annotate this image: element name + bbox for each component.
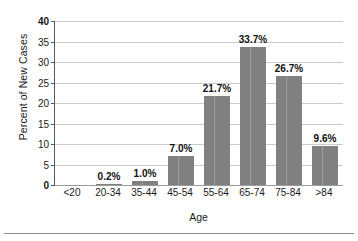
bar-value-label: 0.2%	[91, 171, 127, 182]
x-axis-title: Age	[54, 211, 343, 223]
bar[interactable]	[204, 96, 230, 185]
y-axis-tick-label: 25	[38, 77, 49, 88]
x-axis-tick-label: 45-54	[162, 187, 198, 198]
bar[interactable]	[312, 146, 338, 185]
x-axis-tick-label: >84	[306, 187, 342, 198]
bar-group: 26.7%	[271, 21, 307, 185]
x-axis-tick-labels: <2020-3435-4445-5455-6465-7475-84>84	[54, 187, 343, 203]
x-axis-tick-label: 75-84	[270, 187, 306, 198]
y-axis-tick-label: 5	[43, 159, 49, 170]
x-axis-tick-label: 55-64	[198, 187, 234, 198]
y-axis-tick-label: 20	[38, 98, 49, 109]
bar-group: 9.6%	[307, 21, 343, 185]
bar-group: 7.0%	[163, 21, 199, 185]
bar-value-label: 7.0%	[163, 143, 199, 154]
bar-chart-figure: Percent of New Cases 05101520253035400.2…	[0, 0, 358, 241]
x-axis-tick-label: 20-34	[90, 187, 126, 198]
bar[interactable]	[96, 184, 122, 185]
footer-divider	[4, 233, 354, 234]
bar-group	[55, 21, 91, 185]
y-axis-tick-label: 0	[43, 180, 49, 191]
y-axis-tick	[51, 185, 55, 186]
y-axis-tick-label: 35	[38, 36, 49, 47]
bar-value-label: 26.7%	[271, 63, 307, 74]
y-axis-tick-label: 40	[38, 16, 49, 27]
y-axis-title: Percent of New Cases	[14, 0, 32, 182]
bar-value-label: 21.7%	[199, 83, 235, 94]
bar-value-label: 1.0%	[127, 168, 163, 179]
bar[interactable]	[240, 47, 266, 185]
bar-group: 0.2%	[91, 21, 127, 185]
y-axis-tick-label: 10	[38, 139, 49, 150]
bar-group: 21.7%	[199, 21, 235, 185]
bar-group: 33.7%	[235, 21, 271, 185]
gridline	[55, 185, 343, 186]
bar[interactable]	[276, 76, 302, 185]
bar[interactable]	[132, 181, 158, 185]
bar-value-label: 33.7%	[235, 34, 271, 45]
x-axis-tick-label: 35-44	[126, 187, 162, 198]
bar[interactable]	[168, 156, 194, 185]
y-axis-tick-label: 30	[38, 57, 49, 68]
plot-area: 05101520253035400.2%1.0%7.0%21.7%33.7%26…	[54, 21, 343, 185]
bar-group: 1.0%	[127, 21, 163, 185]
y-axis-tick-label: 15	[38, 118, 49, 129]
x-axis-tick-label: 65-74	[234, 187, 270, 198]
x-axis-tick-label: <20	[54, 187, 90, 198]
bar-value-label: 9.6%	[307, 133, 343, 144]
